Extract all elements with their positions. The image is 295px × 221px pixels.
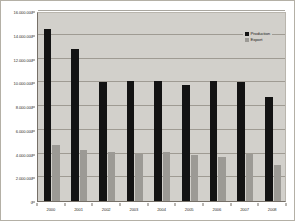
y-axis: 02.000.0004.000.0006.000.0008.000.00010.… [1, 12, 35, 202]
bar-production-2006 [210, 81, 218, 201]
bar-production-2004 [154, 81, 162, 201]
y-axis-tick-label: 16.000.000 [14, 10, 34, 15]
x-axis-tick-mark [175, 203, 176, 206]
x-axis-tick-label: 2001 [74, 207, 83, 212]
bar-group [93, 13, 121, 201]
bar-production-2001 [71, 49, 79, 201]
bar-export-2007 [246, 154, 254, 202]
bar-group [176, 13, 204, 201]
x-axis-tick-label: 2006 [212, 207, 221, 212]
y-axis-tick-label: 6.000.000 [16, 128, 33, 133]
x-axis-tick-mark [203, 203, 204, 206]
x-axis-tick-label: 2007 [240, 207, 249, 212]
bar-group [38, 13, 66, 201]
y-axis-tick-label: 8.000.000 [16, 105, 33, 110]
legend-swatch-production-icon [245, 32, 249, 36]
y-axis-tick-label: 2.000.000 [16, 176, 33, 181]
x-axis-tick-mark [147, 203, 148, 206]
y-axis-tick-mark [32, 59, 35, 60]
y-axis-tick-mark [32, 107, 35, 108]
bar-export-2000 [52, 145, 60, 201]
x-axis-tick-mark [37, 203, 38, 206]
bar-group [149, 13, 177, 201]
y-axis-tick-mark [32, 12, 35, 13]
y-axis-tick-label: 12.000.000 [14, 57, 34, 62]
x-axis-tick-label: 2002 [102, 207, 111, 212]
y-axis-tick-mark [32, 154, 35, 155]
x-axis-tick-label: 2000 [46, 207, 55, 212]
y-axis-tick-label: 10.000.000 [14, 81, 34, 86]
x-axis-tick-mark [64, 203, 65, 206]
legend-swatch-export-icon [245, 38, 249, 42]
x-axis-tick-mark [258, 203, 259, 206]
chart-frame: Production Export 02.000.0004.000.0006.0… [0, 0, 295, 221]
bar-group [121, 13, 149, 201]
bar-export-2002 [108, 152, 116, 201]
legend-item-export: Export [245, 37, 270, 43]
gridline [38, 10, 285, 11]
x-axis-tick-mark [286, 203, 287, 206]
bar-production-2000 [44, 29, 52, 201]
x-axis-tick-label: 2003 [129, 207, 138, 212]
x-axis-tick-mark [230, 203, 231, 206]
chart-legend: Production Export [243, 30, 272, 44]
bar-export-2003 [135, 154, 143, 202]
bar-group [66, 13, 94, 201]
bar-production-2007 [237, 82, 245, 201]
x-axis-tick-mark [120, 203, 121, 206]
y-axis-tick-label: 14.000.000 [14, 33, 34, 38]
bar-export-2004 [163, 152, 171, 201]
bar-export-2006 [218, 157, 226, 201]
y-axis-tick-mark [32, 178, 35, 179]
bar-production-2005 [182, 85, 190, 201]
plot-area: Production Export [37, 12, 286, 202]
y-axis-tick-mark [32, 35, 35, 36]
y-axis-tick-mark [32, 202, 35, 203]
y-axis-tick-mark [32, 130, 35, 131]
x-axis-tick-label: 2005 [185, 207, 194, 212]
x-axis-tick-label: 2008 [268, 207, 277, 212]
y-axis-tick-label: 4.000.000 [16, 152, 33, 157]
bar-production-2003 [127, 81, 135, 201]
legend-label-export: Export [251, 37, 263, 43]
bar-export-2008 [274, 165, 282, 201]
bar-production-2002 [99, 82, 107, 201]
bar-export-2001 [80, 150, 88, 201]
bar-group [204, 13, 232, 201]
bar-export-2005 [191, 155, 199, 201]
bar-production-2008 [265, 97, 273, 202]
x-axis-tick-label: 2004 [157, 207, 166, 212]
y-axis-tick-mark [32, 83, 35, 84]
x-axis-tick-mark [92, 203, 93, 206]
x-axis: 200020012002200320042005200620072008 [37, 203, 286, 219]
